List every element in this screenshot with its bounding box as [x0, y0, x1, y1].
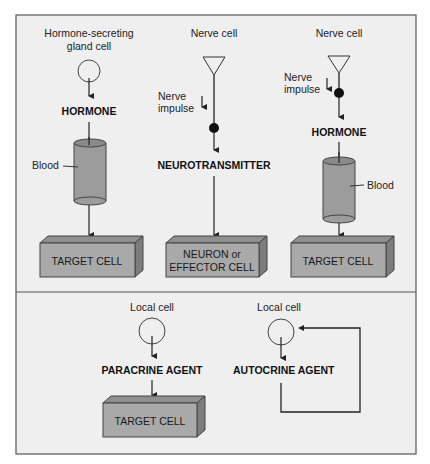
nerve-impulse-label-line1: Nerve	[158, 90, 186, 102]
hormone-label: HORMONE	[62, 105, 117, 117]
nerve-impulse-label-line2: impulse	[158, 102, 194, 114]
neurotransmitter-label: NEUROTRANSMITTER	[157, 159, 271, 171]
neuron-effector-cell-box: NEURON or EFFECTOR CELL	[166, 236, 267, 277]
nerve-impulse-label-line2-2: impulse	[284, 83, 320, 95]
paracrine-agent-label: PARACRINE AGENT	[102, 364, 204, 376]
blood-label: Blood	[32, 159, 59, 171]
axon-terminal-icon	[209, 123, 219, 133]
target-cell-label: TARGET CELL	[52, 255, 123, 267]
neuron-effector-label-line2: EFFECTOR CELL	[169, 261, 255, 273]
local-cell-label-2: Local cell	[257, 301, 301, 313]
paracrine-target-label: TARGET CELL	[115, 415, 186, 427]
blood-vessel-icon	[323, 157, 355, 223]
signaling-diagram: Hormone-secreting gland cell HORMONE Blo…	[0, 0, 430, 464]
hormone-label-2: HORMONE	[312, 126, 367, 138]
nerve-cell-label: Nerve cell	[191, 27, 238, 39]
autocrine-agent-label: AUTOCRINE AGENT	[233, 364, 335, 376]
diagram-frame	[16, 15, 416, 454]
target-cell-box: TARGET CELL	[40, 236, 143, 277]
nerve-impulse-label-line1-2: Nerve	[284, 71, 312, 83]
blood-vessel-icon	[74, 139, 106, 205]
gland-cell-label-line1: Hormone-secreting	[44, 27, 133, 39]
neuron-effector-label-line1: NEURON or	[183, 248, 241, 260]
paracrine-target-cell-box: TARGET CELL	[103, 396, 205, 437]
target-cell-box-2: TARGET CELL	[291, 236, 394, 277]
axon-terminal-icon	[334, 88, 344, 98]
target-cell-label-2: TARGET CELL	[303, 255, 374, 267]
blood-label-2: Blood	[367, 179, 394, 191]
nerve-cell-label-2: Nerve cell	[316, 27, 363, 39]
gland-cell-label-line2: gland cell	[67, 40, 111, 52]
local-cell-label: Local cell	[130, 301, 174, 313]
